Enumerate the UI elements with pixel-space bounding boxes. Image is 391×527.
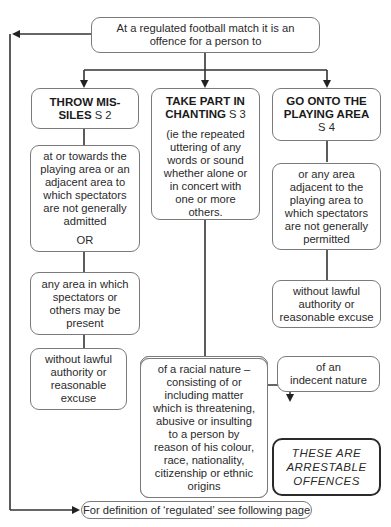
text-line: playing area or an: [40, 163, 130, 176]
footer-text: For definition of ‘regulated’ see follow…: [83, 504, 310, 517]
throw-missiles-box: THROW MIS- SILES S 2: [31, 88, 139, 129]
top-box-line1: At a regulated football match it is an: [117, 22, 295, 35]
text-line: THESE ARE: [292, 446, 361, 460]
text-line: citizenship or ethnic: [155, 467, 253, 480]
text-line: without lawful: [45, 353, 112, 366]
throw-missiles-title-1: THROW MIS-: [50, 96, 121, 109]
playing-area-title-1: GO ONTO THE: [286, 95, 366, 108]
text-line: uttering of any: [170, 141, 241, 154]
playing-area-title-2: PLAYING AREA: [284, 108, 369, 121]
playing-area-excuse-box: without lawful authority or reasonable e…: [272, 280, 381, 328]
text-line: indecent nature: [290, 374, 367, 387]
text-line: including matter: [165, 389, 244, 402]
racial-nature-main: of a racial nature – consisting of or in…: [140, 358, 268, 498]
text-line: authority or: [299, 298, 355, 311]
top-box: At a regulated football match it is an o…: [91, 17, 320, 53]
throw-missiles-area-box: at or towards the playing area or an adj…: [30, 145, 140, 252]
text-line: consisting of or: [166, 376, 241, 389]
text-line: playing area to: [290, 194, 363, 207]
text-line: adjacent to the: [290, 181, 363, 194]
text-line: or any area: [298, 168, 355, 181]
text-line: reasonable excuse: [280, 311, 374, 324]
text-line: any area in which: [41, 278, 128, 291]
chanting-section: S 3: [229, 108, 246, 120]
text-line: present: [66, 317, 103, 330]
text-line: without lawful: [293, 285, 360, 298]
text-line: OFFENCES: [293, 474, 360, 488]
text-line: which spectators: [285, 207, 368, 220]
text-line: of an: [316, 361, 341, 374]
text-line: are not generally: [285, 220, 368, 233]
footer-definition-box: For definition of ‘regulated’ see follow…: [81, 501, 312, 519]
text-line: in concert with: [170, 180, 242, 193]
text-line: ARRESTABLE: [286, 460, 366, 474]
text-line: spectators or: [53, 291, 118, 304]
text-line: to a person by: [169, 428, 240, 441]
throw-missiles-any-area-box: any area in which spectators or others m…: [30, 272, 140, 335]
playing-area-adjacent-box: or any area adjacent to the playing area…: [272, 163, 381, 250]
text-line: excuse: [61, 392, 96, 405]
text-line: abusive or insulting: [156, 415, 252, 428]
text-line: at or towards the: [43, 150, 126, 163]
throw-missiles-title-2: SILES: [58, 109, 91, 121]
throw-missiles-section: S 2: [95, 109, 112, 121]
throw-missiles-excuse-box: without lawful authority or reasonable e…: [30, 348, 127, 410]
text-line: of a racial nature –: [158, 363, 251, 376]
chanting-title-1: TAKE PART IN: [166, 95, 245, 108]
text-line: origins: [188, 480, 221, 493]
text-line: words or sound: [167, 154, 244, 167]
text-line: (ie the repeated: [166, 128, 244, 141]
text-line: which is threatening,: [153, 402, 255, 415]
playing-area-section: S 4: [318, 121, 335, 134]
text-line: permitted: [303, 233, 350, 246]
text-line: admitted: [64, 215, 107, 228]
arrestable-offences-note: THESE ARE ARRESTABLE OFFENCES: [272, 438, 381, 496]
text-line: authority or: [51, 366, 107, 379]
text-line: one or more: [175, 193, 235, 206]
text-line: adjacent area to: [45, 176, 125, 189]
text-line: which spectators: [43, 189, 126, 202]
chanting-box: TAKE PART IN CHANTING S 3 (ie the repeat…: [151, 88, 260, 220]
text-line: reasonable: [51, 379, 106, 392]
chanting-title-2: CHANTING: [165, 108, 226, 120]
playing-area-box: GO ONTO THE PLAYING AREA S 4: [272, 88, 381, 141]
text-line: others.: [188, 206, 222, 219]
or-connector: OR: [77, 234, 94, 247]
indecent-nature-box: of an indecent nature: [277, 356, 380, 392]
text-line: reason of his colour,: [154, 441, 254, 454]
text-line: race, nationality,: [164, 454, 245, 467]
text-line: others may be: [50, 304, 121, 317]
text-line: whether alone or: [164, 167, 247, 180]
text-line: are not generally: [43, 202, 126, 215]
top-box-line2: offence for a person to: [150, 35, 262, 48]
